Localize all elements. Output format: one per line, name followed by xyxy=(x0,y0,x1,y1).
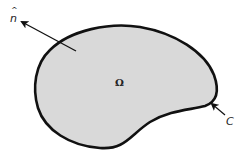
region-label: Ω xyxy=(115,77,124,88)
normal-hat: ^ xyxy=(11,5,18,14)
boundary-arrow xyxy=(212,104,225,115)
boundary-label: C xyxy=(226,115,234,128)
domain-diagram: n ^ Ω C xyxy=(0,0,244,156)
